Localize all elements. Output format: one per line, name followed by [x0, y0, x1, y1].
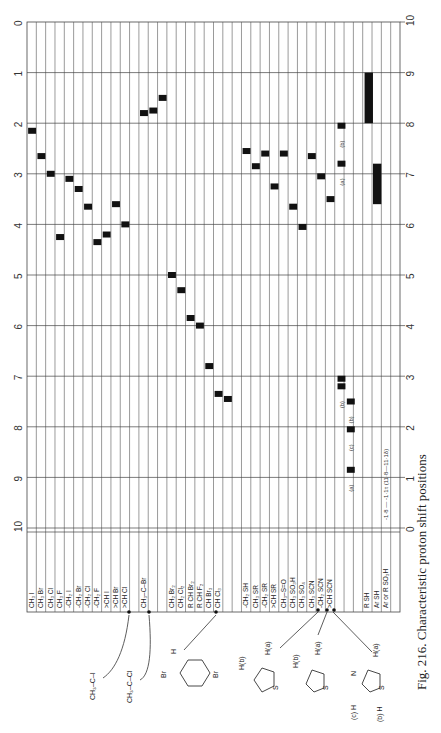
svg-text:Br: Br [212, 670, 219, 678]
shift-bar [317, 173, 325, 179]
shift-bar [149, 108, 157, 114]
range-note: -1·8 — -1·1τ (11·8—11·1δ) [383, 449, 389, 520]
structure-ch3-c-i: CH₃–C–I [89, 672, 96, 700]
column-label: R CH F₂ [196, 583, 203, 608]
delta-tick-label: 4 [405, 324, 416, 330]
chart-svg: 010192837465564738291100 CH₃ ICH₃ BrCH₃ … [0, 0, 441, 733]
column-label: >CH SCN [326, 579, 333, 608]
column-label: CH Cl₃ [214, 588, 221, 608]
column-label: >CH I [103, 591, 110, 608]
shift-bar [177, 287, 185, 293]
tau-tick-label: 9 [13, 475, 24, 481]
structure-ch3-c-cl: CH₃–C–Cl [126, 670, 133, 703]
column-label: CH₃ I [28, 592, 35, 608]
shift-bar [205, 363, 213, 369]
figure-caption: Fig. 216. Characteristic proton shift po… [414, 454, 430, 690]
tau-tick-label: 1 [13, 71, 24, 77]
hetero-shift-bar [347, 399, 355, 405]
delta-tick-label: 2 [405, 425, 416, 431]
column-label: CH₃–S=O [280, 579, 287, 608]
shift-bar [37, 153, 45, 159]
hetero-shift-bar [347, 426, 355, 432]
shift-bar [103, 232, 111, 238]
column-label: -CH₂ F [93, 588, 100, 608]
svg-text:CH₃–C–I: CH₃–C–I [89, 672, 96, 700]
shift-bar [252, 163, 260, 169]
shift-bar [112, 201, 120, 207]
hetero-tag: (b) [339, 140, 345, 147]
column-label: -CH₂ SCN [317, 578, 324, 608]
svg-text:CH₃–C–Cl: CH₃–C–Cl [126, 670, 133, 703]
svg-text:H(b): H(b) [238, 656, 246, 670]
svg-text:H: H [170, 649, 177, 654]
shift-bar [187, 315, 195, 321]
shift-bar [75, 186, 83, 192]
shift-bar [65, 176, 73, 182]
range-block [373, 164, 381, 204]
leader-dot [147, 610, 151, 614]
shift-bar [93, 239, 101, 245]
leader-dot [332, 608, 336, 612]
shift-bar [224, 396, 232, 402]
column-label: -CH₂ Cl [84, 585, 91, 608]
shift-bar [168, 272, 176, 278]
shift-bar [261, 151, 269, 157]
hetero-shift-bar [338, 376, 346, 382]
leader-dot [214, 610, 218, 614]
delta-tick-label: 10 [405, 14, 416, 26]
column-label: R SH [363, 592, 370, 608]
svg-text:H(a): H(a) [314, 641, 322, 655]
svg-text:S: S [272, 685, 279, 690]
shift-bar [280, 151, 288, 157]
hetero-shift-bar [338, 383, 346, 389]
structures: CH₃–C–I CH₃–C–Cl Br Br H H(b) H(a) S [89, 612, 385, 722]
column-label: CH₃ SO₃H [289, 577, 296, 608]
grid: 010192837465564738291100 [13, 14, 416, 612]
structure-thiolane: H(b) H(a) S [238, 641, 279, 692]
hetero-shift-bar [338, 123, 346, 129]
tau-tick-label: 0 [13, 20, 24, 26]
shift-bar [289, 204, 297, 210]
svg-text:(c) H: (c) H [350, 705, 358, 720]
column-label: -CH₂ SH [242, 583, 249, 608]
range-block [365, 73, 373, 124]
svg-text:Br: Br [160, 670, 167, 678]
column-label: >CH Br [112, 586, 119, 608]
column-label: Ar or R SO₃H [382, 569, 389, 608]
column-label: CH Br₃ [205, 587, 212, 608]
column-label: -CH₂ Br [75, 585, 82, 608]
shift-bar [271, 183, 279, 189]
delta-tick-label: 5 [405, 273, 416, 279]
proton-shift-chart: 010192837465564738291100 CH₃ ICH₃ BrCH₃ … [0, 0, 441, 733]
svg-text:H(b): H(b) [292, 654, 300, 668]
svg-text:(b) H: (b) H [376, 706, 384, 722]
delta-tick-label: 9 [405, 71, 416, 77]
column-label: >CH Cl [121, 586, 128, 608]
tau-tick-label: 2 [13, 121, 24, 127]
shift-bar [215, 391, 223, 397]
shift-bar [28, 128, 36, 134]
svg-text:N: N [350, 671, 357, 676]
svg-text:S: S [322, 685, 329, 690]
svg-text:S: S [378, 685, 385, 690]
tau-tick-label: 6 [13, 324, 24, 330]
column-label: >CH SR [270, 584, 277, 608]
hetero-tag: (c) [348, 444, 354, 451]
column-label: CH₃ SO₄ [298, 582, 305, 608]
shift-bar [299, 224, 307, 230]
delta-tick-label: 7 [405, 172, 416, 178]
column-label: R CH Br₂ [187, 581, 194, 608]
structure-dibromobenzene: Br Br H [160, 649, 219, 686]
column-label: CH₂ Cl₂ [177, 585, 184, 608]
tau-tick-label: 7 [13, 374, 24, 380]
column-label: CH₃ Cl [47, 587, 54, 608]
tau-tick-label: 10 [13, 520, 24, 532]
structure-thiazole: N S H(a) (c) H (b) H [350, 643, 385, 722]
column-label: CH₃–C–Br [140, 577, 147, 608]
hetero-tag: (a) [348, 484, 354, 491]
column-label: CH₃ Br [37, 587, 44, 608]
shift-bar [327, 196, 335, 202]
shift-bar [47, 171, 55, 177]
shift-bar [308, 153, 316, 159]
shift-bar [140, 110, 148, 116]
